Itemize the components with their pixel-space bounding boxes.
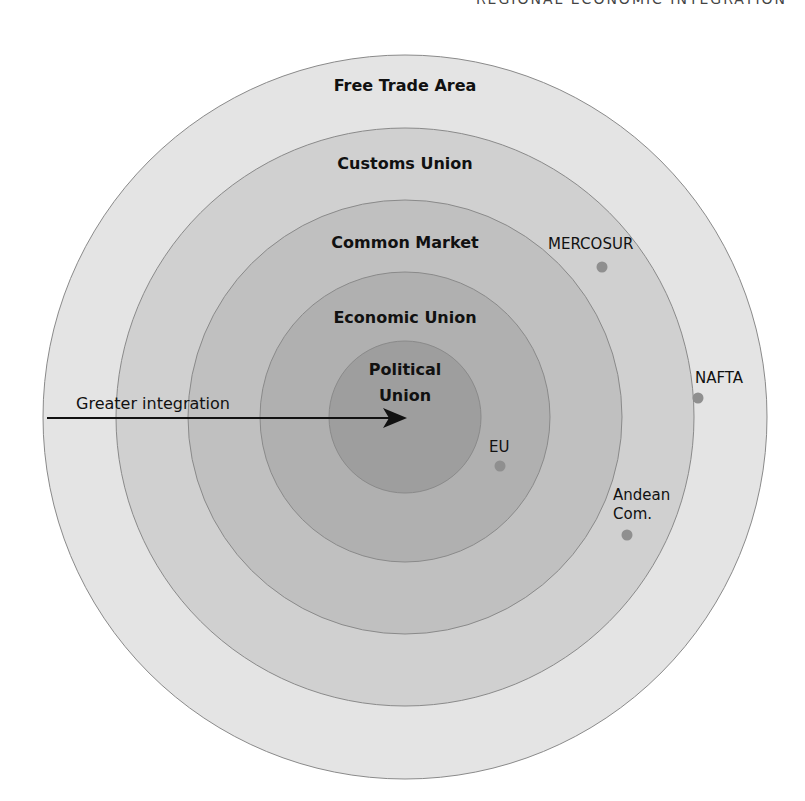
ring-label-economic-union: Economic Union bbox=[333, 308, 476, 327]
member-label-andean: Andean bbox=[613, 486, 670, 504]
member-dot-andean bbox=[622, 530, 633, 541]
arrow-label: Greater integration bbox=[76, 394, 230, 413]
ring-label-union: Union bbox=[379, 386, 431, 405]
member-dot-mercosur bbox=[597, 262, 608, 273]
integration-diagram: Free Trade AreaCustoms UnionCommon Marke… bbox=[0, 0, 805, 801]
ring-label-political: Political bbox=[369, 360, 442, 379]
ring-label-common-market: Common Market bbox=[331, 233, 479, 252]
member-label-andean-line2: Com. bbox=[613, 505, 652, 523]
member-dot-eu bbox=[495, 461, 506, 472]
member-label-nafta: NAFTA bbox=[695, 369, 744, 387]
ring-label-free-trade-area: Free Trade Area bbox=[334, 76, 477, 95]
member-label-eu: EU bbox=[489, 438, 509, 456]
member-label-mercosur: MERCOSUR bbox=[548, 235, 633, 253]
ring-label-customs-union: Customs Union bbox=[337, 154, 472, 173]
member-dot-nafta bbox=[693, 393, 704, 404]
